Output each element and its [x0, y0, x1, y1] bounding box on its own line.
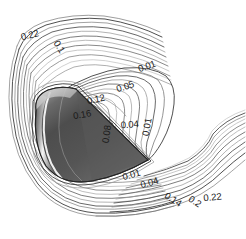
contour-plot-canvas	[0, 0, 246, 239]
contour-plot-figure: 0.22 0.1 0.01 0.05 0.12 0.16 0.08 0.04 0…	[0, 0, 246, 239]
